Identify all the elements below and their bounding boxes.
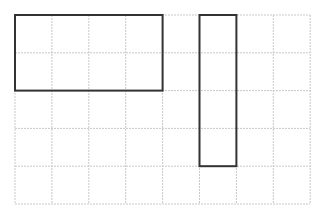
- grid-diagram: [0, 0, 327, 214]
